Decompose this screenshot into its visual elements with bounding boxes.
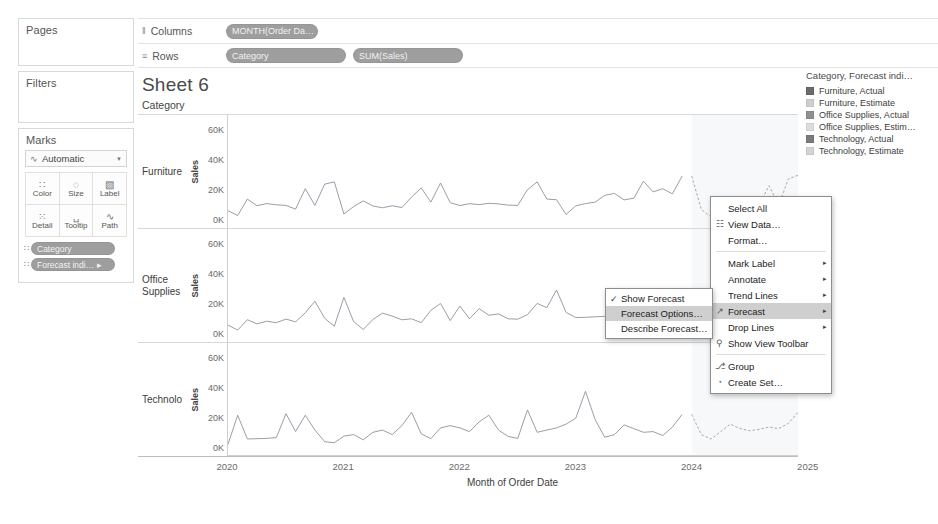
marks-tooltip-button[interactable]: ␣Tooltip	[60, 205, 94, 237]
marks-pill-forecast-indicator[interactable]: Forecast indi… ▸	[31, 258, 115, 271]
marks-button-grid: ∷Color◌Size▧Label⁙Detail␣Tooltip∿Path	[25, 172, 127, 237]
marks-color-button[interactable]: ∷Color	[26, 173, 60, 205]
y-tick-label: 20K	[208, 413, 224, 423]
pages-card-title: Pages	[19, 19, 133, 40]
marks-label-label: Label	[100, 190, 120, 198]
columns-shelf-label: ‖ Columns	[138, 25, 226, 37]
pane-furniture: FurnitureSales60K40K20K0K	[138, 115, 798, 229]
menu-separator	[716, 354, 826, 355]
x-tick-label: 2023	[565, 461, 586, 472]
submenu-arrow-icon: ▸	[823, 307, 827, 315]
rows-label-text: Rows	[152, 50, 178, 62]
pill-month-order-date[interactable]: MONTH(Order Da…	[226, 24, 318, 39]
y-tick-label: 20K	[208, 185, 224, 195]
marks-detail-label: Detail	[32, 222, 52, 230]
submenu-arrow-icon: ▸	[823, 291, 827, 299]
submenu-item-show-forecast[interactable]: ✓Show Forecast	[606, 291, 712, 306]
menu-item-annotate[interactable]: Annotate▸	[711, 271, 831, 287]
submenu-arrow-icon: ▸	[823, 323, 827, 331]
marks-pill-category[interactable]: Category	[31, 242, 115, 255]
menu-item-trend-lines[interactable]: Trend Lines▸	[711, 287, 831, 303]
context-menu[interactable]: Select All☷View Data…Format…Mark Label▸A…	[710, 196, 832, 394]
menu-item-drop-lines[interactable]: Drop Lines▸	[711, 319, 831, 335]
y-axis-title-text: Sales	[190, 274, 200, 298]
legend-swatch	[806, 87, 814, 95]
legend-item[interactable]: Furniture, Estimate	[806, 98, 930, 108]
menu-item-label: Forecast	[728, 306, 819, 317]
x-tick-label: 2022	[449, 461, 470, 472]
menu-item-show-view-toolbar[interactable]: ⚲Show View Toolbar	[711, 335, 831, 351]
menu-item-label: Trend Lines	[728, 290, 819, 301]
menu-item-view-data[interactable]: ☷View Data…	[711, 216, 831, 232]
menu-item-group[interactable]: ⎇Group	[711, 358, 831, 374]
marks-card-title: Marks	[19, 129, 133, 150]
forecast-submenu[interactable]: ✓Show ForecastForecast Options…Describe …	[605, 288, 713, 339]
legend-item[interactable]: Office Supplies, Actual	[806, 110, 930, 120]
pill-category[interactable]: Category	[226, 48, 346, 63]
row-header-label: Technolo	[138, 343, 188, 456]
color-encoding-icon: ∷	[24, 260, 28, 269]
rows-pill-container: Category SUM(Sales)	[226, 48, 463, 63]
marks-label-button[interactable]: ▧Label	[93, 173, 127, 205]
menu-item-label: Group	[728, 361, 827, 372]
legend-swatch	[806, 135, 814, 143]
rows-shelf-label: ≡ Rows	[138, 50, 226, 62]
checkmark-icon: ✓	[606, 294, 621, 304]
menu-item-label: Select All	[728, 203, 827, 214]
y-tick-label: 40K	[208, 269, 224, 279]
legend-item[interactable]: Technology, Actual	[806, 134, 930, 144]
x-axis-title: Month of Order Date	[227, 477, 798, 488]
row-header-label: Office Supplies	[138, 229, 188, 342]
label-icon: ▧	[105, 180, 114, 189]
marks-color-label: Color	[33, 190, 52, 198]
columns-shelf[interactable]: ‖ Columns MONTH(Order Da…	[138, 18, 938, 43]
menu-item-select-all[interactable]: Select All	[711, 200, 831, 216]
columns-icon: ‖	[142, 26, 146, 36]
row-header-label: Furniture	[138, 115, 188, 228]
forecast-icon: ↗	[711, 306, 728, 316]
menu-item-forecast[interactable]: ↗Forecast▸	[711, 303, 831, 319]
marks-tooltip-label: Tooltip	[64, 222, 87, 230]
y-tick-label: 20K	[208, 299, 224, 309]
menu-item-create-set[interactable]: ◔Create Set…	[711, 374, 831, 390]
x-tick-label: 2020	[216, 461, 237, 472]
y-tick-label: 40K	[208, 155, 224, 165]
mark-type-value: Automatic	[42, 153, 116, 164]
x-tick-label: 2021	[333, 461, 354, 472]
submenu-item-forecast-options[interactable]: Forecast Options…	[606, 306, 712, 321]
menu-item-mark-label[interactable]: Mark Label▸	[711, 255, 831, 271]
y-axis-title-text: Sales	[190, 160, 200, 184]
y-tick-label: 60K	[208, 125, 224, 135]
pane-technology: TechnoloSales60K40K20K0K	[138, 343, 798, 457]
column-header-category: Category	[138, 99, 798, 114]
y-axis-ticks: 60K40K20K0K	[201, 115, 227, 228]
legend-item[interactable]: Office Supplies, Estim…	[806, 122, 930, 132]
marks-detail-button[interactable]: ⁙Detail	[26, 205, 60, 237]
legend-item-label: Technology, Actual	[819, 134, 893, 144]
paperclip-icon: ⎇	[711, 361, 728, 371]
marks-card: Marks ∿ Automatic ▼ ∷Color◌Size▧Label⁙De…	[18, 128, 134, 283]
y-axis-title: Sales	[188, 229, 201, 342]
legend-item-label: Office Supplies, Estim…	[819, 122, 916, 132]
rows-shelf[interactable]: ≡ Rows Category SUM(Sales)	[138, 43, 938, 68]
menu-item-format[interactable]: Format…	[711, 232, 831, 248]
marks-size-button[interactable]: ◌Size	[60, 173, 94, 205]
menu-item-label: Drop Lines	[728, 322, 819, 333]
marks-path-button[interactable]: ∿Path	[93, 205, 127, 237]
line-mark-icon: ∿	[30, 154, 38, 164]
submenu-arrow-icon: ▸	[823, 259, 827, 267]
menu-item-label: Annotate	[728, 274, 819, 285]
legend-item[interactable]: Technology, Estimate	[806, 146, 930, 156]
legend-item[interactable]: Furniture, Actual	[806, 86, 930, 96]
legend-swatch	[806, 147, 814, 155]
submenu-item-describe-forecast[interactable]: Describe Forecast…	[606, 321, 712, 336]
menu-item-label: Create Set…	[728, 377, 827, 388]
menu-item-label: View Data…	[728, 219, 827, 230]
mark-type-dropdown[interactable]: ∿ Automatic ▼	[25, 150, 127, 167]
visualization-area: Sheet 6 Category FurnitureSales60K40K20K…	[138, 70, 798, 500]
set-icon: ◔	[711, 377, 728, 387]
pill-sum-sales[interactable]: SUM(Sales)	[353, 48, 463, 63]
marks-path-label: Path	[101, 222, 117, 230]
y-axis-title-text: Sales	[190, 388, 200, 412]
y-axis-title: Sales	[188, 343, 201, 456]
